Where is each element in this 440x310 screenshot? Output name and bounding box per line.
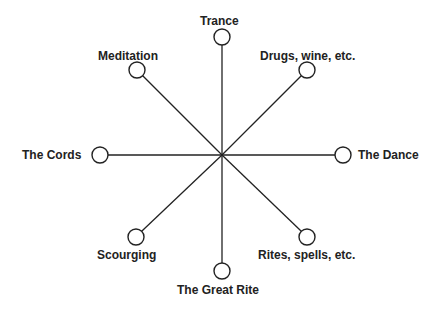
diagram-canvas: Trance Drugs, wine, etc. The Dance Rites… bbox=[0, 0, 440, 310]
spoke-drugs bbox=[222, 76, 301, 155]
node-circle-dance bbox=[335, 147, 351, 163]
node-circle-great-rite bbox=[214, 263, 230, 279]
label-rites: Rites, spells, etc. bbox=[258, 248, 355, 262]
node-circle-rites bbox=[299, 229, 315, 245]
label-drugs: Drugs, wine, etc. bbox=[260, 49, 355, 63]
spoke-meditation bbox=[143, 76, 222, 155]
label-great-rite: The Great Rite bbox=[177, 283, 259, 297]
node-circle-trance bbox=[214, 29, 230, 45]
spoke-scourging bbox=[142, 155, 222, 231]
label-trance: Trance bbox=[200, 14, 239, 28]
label-meditation: Meditation bbox=[98, 49, 158, 63]
label-cords: The Cords bbox=[22, 148, 81, 162]
label-dance: The Dance bbox=[358, 148, 419, 162]
node-circle-meditation bbox=[129, 62, 145, 78]
spoke-rites bbox=[222, 155, 301, 231]
label-scourging: Scourging bbox=[97, 248, 156, 262]
node-circle-scourging bbox=[128, 229, 144, 245]
node-circle-cords bbox=[92, 147, 108, 163]
node-circle-drugs bbox=[299, 62, 315, 78]
